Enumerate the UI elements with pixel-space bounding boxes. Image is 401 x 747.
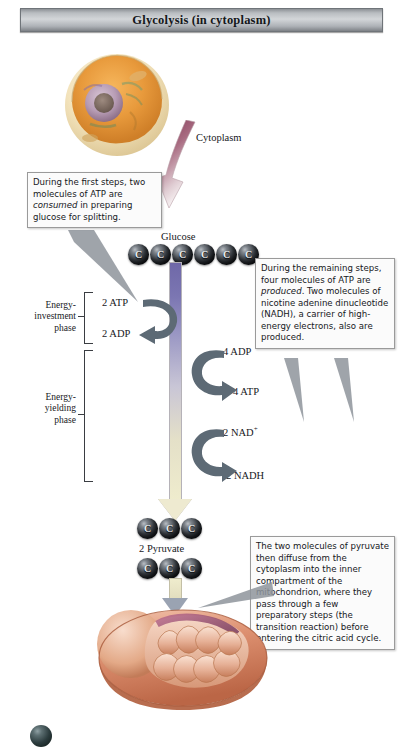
carbon-sphere-partial [30,725,52,747]
bracket-investment [84,292,93,344]
callout-yielding-text-1: During the remaining steps, four molecul… [261,263,381,285]
label-adp-invested: 2 ADP [102,328,130,339]
pyruvate-molecule-2: C C C [137,558,205,580]
phase-label-investment: Energy- investment phase [24,300,76,334]
carbon-sphere: C [150,244,171,265]
nad-to-nadh-arrow [190,424,238,486]
callout-investment: During the first steps, two molecules of… [27,172,162,228]
atp-to-adp-arrow [137,292,183,350]
label-atp-invested: 2 ATP [102,297,128,308]
carbon-sphere: C [181,558,202,579]
pyruvate-molecule-1: C C C [137,518,205,540]
carbon-sphere: C [137,558,158,579]
callout-investment-text-1: During the first steps, two molecules of… [33,177,145,199]
carbon-sphere: C [128,244,149,265]
callout-yielding-emph: produced [261,286,302,296]
carbon-sphere: C [159,518,180,539]
label-pyruvate: 2 Pyruvate [139,543,184,554]
callout-investment-emph: consumed [33,200,77,210]
carbon-sphere: C [137,518,158,539]
page-title-banner: Glycolysis (in cytoplasm) [20,8,383,32]
bracket-yielding [84,350,93,482]
carbon-sphere: C [181,518,202,539]
glucose-molecule: C C C C C C [128,244,262,266]
carbon-sphere: C [159,558,180,579]
callout-yielding-pointer [246,356,366,426]
label-glucose: Glucose [161,231,195,242]
label-cytoplasm: Cytoplasm [196,132,242,143]
carbon-sphere: C [216,244,237,265]
phase-label-yielding: Energy- yielding phase [24,392,76,426]
mitochondrion-illustration [95,588,270,713]
adp-to-atp-arrow [190,345,238,405]
page-title: Glycolysis (in cytoplasm) [132,13,270,28]
carbon-sphere: C [194,244,215,265]
bracket-investment-tick [78,316,85,317]
callout-yielding: During the remaining steps, four molecul… [255,258,395,349]
bracket-yielding-tick [78,414,85,415]
